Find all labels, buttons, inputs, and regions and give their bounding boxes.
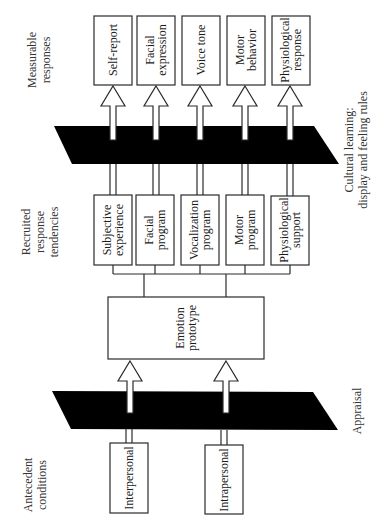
svg-text:expression: expression — [155, 24, 169, 75]
row-label-measurable: Measurable responses — [25, 32, 53, 88]
response-tendencies: Subjective experience Facial program Voc… — [94, 195, 309, 265]
svg-text:responses: responses — [39, 36, 53, 83]
svg-text:Antecedent: Antecedent — [21, 457, 35, 512]
svg-text:Cultural learning:: Cultural learning: — [342, 108, 356, 193]
svg-text:Measurable: Measurable — [25, 32, 39, 88]
row-label-recruited: Recruited response tendencies — [19, 206, 61, 257]
svg-text:Self-report: Self-report — [106, 23, 120, 76]
svg-text:support: support — [289, 211, 303, 248]
svg-text:prototype: prototype — [185, 305, 199, 351]
branch-connector — [113, 265, 290, 297]
svg-text:response: response — [33, 211, 47, 253]
emotion-prototype-label: Emotion prototype — [173, 305, 199, 351]
svg-text:Recruited: Recruited — [19, 209, 33, 256]
svg-text:behavior: behavior — [245, 29, 259, 71]
band-label-cultural: Cultural learning: display and feeling r… — [342, 91, 370, 209]
appraisal-band — [52, 391, 338, 430]
svg-text:Voice tone: Voice tone — [194, 25, 208, 76]
svg-text:display and feeling rules: display and feeling rules — [356, 91, 370, 209]
svg-text:program: program — [199, 209, 213, 250]
measurable-responses: Self-report Facial expression Voice tone… — [94, 16, 310, 85]
row-label-antecedent: Antecedent conditions — [21, 457, 49, 512]
svg-text:tendencies: tendencies — [47, 206, 61, 257]
tendency-connectors — [110, 164, 293, 196]
antecedents: Interpersonal Intrapersonal — [110, 443, 243, 514]
svg-text:program: program — [154, 209, 168, 250]
svg-text:Interpersonal: Interpersonal — [122, 446, 136, 510]
svg-text:response: response — [290, 29, 304, 71]
band-label-appraisal: Appraisal — [350, 387, 364, 434]
svg-text:Intrapersonal: Intrapersonal — [217, 448, 231, 512]
svg-text:Appraisal: Appraisal — [350, 387, 364, 434]
svg-text:experience: experience — [112, 204, 126, 256]
emotion-process-diagram: Measurable responses Recruited response … — [0, 0, 384, 532]
svg-text:conditions: conditions — [35, 460, 49, 510]
svg-text:program: program — [244, 209, 258, 250]
